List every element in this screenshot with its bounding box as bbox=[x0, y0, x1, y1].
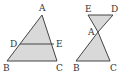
triangle-abc bbox=[7, 15, 57, 61]
label-c: C bbox=[56, 63, 63, 73]
label-c: C bbox=[110, 63, 117, 73]
right-figure: E D A B C bbox=[73, 4, 118, 73]
label-d: D bbox=[111, 4, 118, 14]
label-a: A bbox=[38, 3, 46, 13]
label-e: E bbox=[85, 4, 92, 14]
label-a: A bbox=[87, 27, 95, 37]
label-e: E bbox=[56, 39, 63, 49]
geometry-diagram: A D E B C E D A B C bbox=[0, 0, 121, 78]
label-b: B bbox=[73, 63, 80, 73]
label-d: D bbox=[10, 39, 17, 49]
label-b: B bbox=[3, 63, 10, 73]
left-figure: A D E B C bbox=[3, 3, 63, 73]
